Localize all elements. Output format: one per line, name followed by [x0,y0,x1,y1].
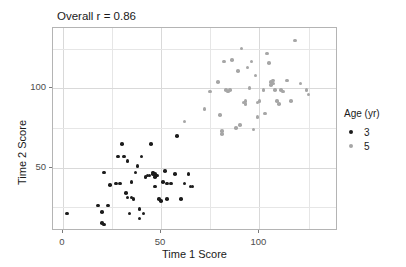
data-point-3 [149,142,153,146]
data-point-3 [165,197,169,201]
data-point-3 [126,159,130,163]
data-point-3 [136,164,140,168]
data-point-5 [252,128,256,132]
x-tick-label: 0 [47,236,77,247]
data-point-3 [191,185,195,189]
grid-line-horizontal [53,168,336,169]
data-point-3 [140,155,144,159]
plot-panel [52,27,337,230]
data-point-3 [102,171,106,175]
x-tick-mark [160,230,161,233]
data-point-3 [116,155,120,159]
data-point-3 [169,182,173,186]
data-point-5 [203,107,207,111]
data-point-5 [248,86,252,90]
x-axis-title: Time 1 Score [52,248,337,260]
legend-dot-5 [349,144,353,148]
data-point-3 [128,212,132,216]
data-point-5 [250,60,254,64]
data-point-5 [236,69,240,73]
data-point-5 [222,60,226,64]
data-point-5 [285,79,289,83]
data-point-5 [293,39,297,43]
data-point-5 [267,61,271,65]
data-point-5 [238,123,242,127]
data-point-5 [265,52,269,56]
y-axis-title: Time 2 Score [16,120,28,185]
y-tick-mark [49,167,52,168]
data-point-3 [122,155,126,159]
data-point-3 [120,142,124,146]
data-point-3 [138,207,142,211]
scatter-plot-figure: Overall r = 0.86 50100 050100 Time 1 Sco… [0,0,406,267]
data-point-3 [155,174,159,178]
data-point-3 [130,180,134,184]
legend-title: Age (yr) [344,108,404,119]
legend-key-icon-3 [344,130,358,134]
data-point-3 [173,172,177,176]
legend-label-3: 3 [364,127,370,138]
grid-line-horizontal-minor [53,49,336,50]
data-point-5 [234,126,238,130]
data-point-5 [220,132,224,136]
legend: Age (yr) 3 5 [344,108,404,153]
data-point-5 [208,90,212,94]
data-point-5 [273,88,277,92]
x-tick-label: 100 [243,236,273,247]
data-point-5 [254,74,258,78]
data-point-3 [65,212,69,216]
grid-line-horizontal-minor [53,207,336,208]
data-point-5 [216,80,220,84]
data-point-3 [138,217,142,221]
data-point-5 [277,102,281,106]
grid-line-horizontal-minor [53,128,336,129]
data-point-3 [175,134,179,138]
data-point-3 [163,169,167,173]
data-point-3 [100,210,104,214]
data-point-5 [256,115,260,119]
x-tick-mark [62,230,63,233]
grid-line-horizontal [53,88,336,89]
data-point-5 [230,58,234,62]
data-point-3 [179,197,183,201]
data-point-5 [244,102,248,106]
data-point-5 [307,93,311,97]
data-point-3 [187,172,191,176]
data-point-3 [124,191,128,195]
data-point-3 [134,171,138,175]
data-point-5 [262,88,266,92]
y-tick-mark [49,87,52,88]
data-point-5 [240,47,244,51]
data-point-5 [281,90,285,94]
data-point-3 [108,183,112,187]
data-point-5 [218,113,222,117]
data-point-3 [118,182,122,186]
y-tick-label: 100 [20,81,46,92]
data-point-3 [126,196,130,200]
data-point-3 [153,185,157,189]
data-point-3 [159,199,163,203]
legend-key-icon-5 [344,144,358,148]
legend-item-5[interactable]: 5 [344,139,404,153]
data-point-5 [246,66,250,70]
data-point-5 [271,82,275,86]
chart-title: Overall r = 0.86 [57,10,136,22]
data-point-3 [183,182,187,186]
data-point-5 [263,112,267,116]
x-tick-label: 50 [145,236,175,247]
data-point-5 [220,129,224,133]
data-point-5 [289,99,293,103]
x-tick-mark [258,230,259,233]
data-point-3 [142,212,146,216]
legend-dot-3 [349,130,353,134]
data-point-5 [299,82,303,86]
data-point-5 [305,88,309,92]
legend-label-5: 5 [364,141,370,152]
data-point-3 [102,223,106,227]
data-point-5 [183,120,187,124]
data-point-5 [226,90,230,94]
legend-item-3[interactable]: 3 [344,125,404,139]
